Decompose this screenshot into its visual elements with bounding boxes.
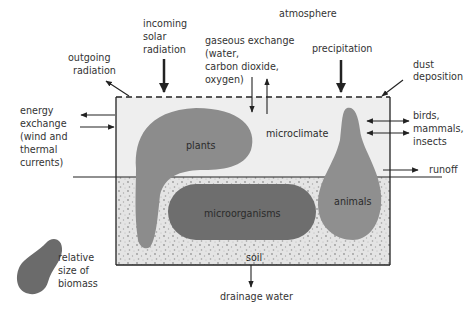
legend-biomass-blob [17, 239, 62, 294]
microorganisms-label: microorganisms [204, 208, 281, 219]
incoming-solar-label: incoming solar radiation [143, 18, 190, 55]
plants-label: plants [186, 140, 215, 151]
outgoing-radiation-label: outgoing radiation [68, 52, 116, 76]
gaseous-exchange-label: gaseous exchange (water, carbon dioxide,… [205, 35, 297, 85]
birds-mammals-insects-label: birds, mammals, insects [413, 110, 467, 147]
outgoing-radiation-arrow [106, 81, 129, 96]
energy-exchange-label: energy exchange (wind and thermal curren… [20, 105, 71, 168]
ecosystem-diagram: plants microclimate microorganisms anima… [0, 0, 471, 314]
legend-label: relative size of biomass [58, 252, 98, 289]
animals-label: animals [334, 196, 372, 207]
runoff-label: runoff [429, 164, 458, 175]
soil-label: soil [246, 252, 262, 263]
dust-deposition-label: dust deposition [413, 59, 463, 82]
drainage-water-label: drainage water [220, 291, 293, 302]
microclimate-label: microclimate [266, 128, 328, 139]
dust-deposition-arrow [382, 80, 403, 96]
precipitation-label: precipitation [312, 43, 372, 54]
atmosphere-label: atmosphere [279, 8, 337, 19]
